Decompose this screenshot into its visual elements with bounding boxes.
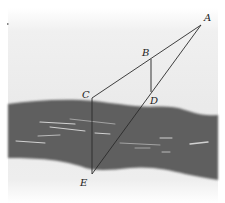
label-B: B: [141, 47, 149, 58]
label-A: A: [203, 12, 211, 23]
label-D: D: [149, 95, 158, 106]
label-C: C: [82, 89, 90, 100]
speck: [7, 23, 9, 25]
label-E: E: [79, 177, 88, 188]
diagram-canvas: A B C D E: [0, 0, 225, 203]
river-width-diagram: A B C D E: [0, 0, 225, 203]
